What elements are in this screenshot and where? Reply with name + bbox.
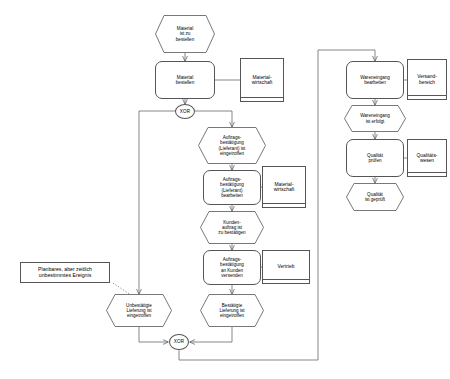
org-unit-label: Vertrieb — [278, 264, 295, 269]
edge-xor-right-branch — [195, 111, 232, 127]
event-auftragsbestaetigung-eingetroffen[interactable]: Auftrags- bestätigung (Lieferant) ist ei… — [198, 127, 266, 164]
event-label: Qualität ist geprüft — [358, 192, 392, 202]
event-label: Auftrags- bestätigung (Lieferant) ist ei… — [212, 135, 253, 156]
connector-label: XOR — [180, 109, 190, 114]
function-label: Wareneingang bearbeiten — [356, 75, 394, 85]
event-label: Material ist zu bestellen — [169, 26, 201, 41]
connector-xor-top[interactable]: XOR — [175, 104, 195, 119]
connector-xor-bottom[interactable]: XOR — [169, 334, 189, 350]
edge-ul-to-xor-bottom — [139, 327, 168, 342]
event-label: Wareneingang ist erfolgt — [353, 113, 397, 123]
event-label: Unbestätigte Lieferung ist eingetroffen — [119, 303, 159, 318]
event-label: Bestätigte Lieferung ist eingetroffen — [212, 303, 251, 318]
epc-diagram-canvas: Material ist zu bestellen Material beste… — [0, 0, 450, 379]
function-auftragsbestaetigung-bearbeiten[interactable]: Auftrags- bestätigung (Lieferant) bearbe… — [203, 170, 261, 205]
function-auftragsbestaetigung-versenden[interactable]: Auftrags- bestätigung an Kunden versende… — [203, 250, 261, 285]
org-unit-label: Qualitäts- wesen — [417, 153, 438, 164]
event-label: Kunden- auftrag ist zu bestätigen — [211, 220, 252, 235]
function-label: Auftrags- bestätigung an Kunden versende… — [216, 257, 248, 278]
function-label: Auftrags- bestätigung (Lieferant) bearbe… — [216, 177, 248, 198]
event-unbestaetigte-lieferung[interactable]: Unbestätigte Lieferung ist eingetroffen — [106, 294, 172, 327]
connector-label: XOR — [174, 339, 184, 344]
event-wareneingang-erfolgt[interactable]: Wareneingang ist erfolgt — [344, 105, 406, 132]
function-wareneingang-bearbeiten[interactable]: Wareneingang bearbeiten — [346, 61, 404, 99]
org-unit-materialwirtschaft-mid[interactable]: Material- wirtschaft — [262, 166, 306, 208]
org-unit-materialwirtschaft-top[interactable]: Material- wirtschaft — [240, 58, 284, 102]
edge-xor-left-branch — [139, 111, 175, 294]
function-label: Material bestellen — [172, 75, 198, 85]
event-kundenauftrag-zu-bestaetigen[interactable]: Kunden- auftrag ist zu bestätigen — [200, 211, 264, 244]
event-material-zu-bestellen[interactable]: Material ist zu bestellen — [155, 15, 215, 53]
org-unit-qualitaetswesen[interactable]: Qualitäts- wesen — [407, 139, 447, 177]
note-label: Planbares, aber zeitlich unbestimmtes Er… — [35, 267, 95, 279]
note-planbares-ereignis: Planbares, aber zeitlich unbestimmtes Er… — [20, 262, 110, 283]
org-unit-label: Material- wirtschaft — [252, 75, 273, 86]
edge-bl-to-xor-bottom — [190, 327, 232, 342]
function-material-bestellen[interactable]: Material bestellen — [155, 61, 215, 99]
org-unit-vertrieb[interactable]: Vertrieb — [262, 250, 310, 284]
org-unit-label: Material- wirtschaft — [274, 182, 295, 193]
function-label: Qualität prüfen — [363, 153, 387, 163]
org-unit-versandbereich[interactable]: Versand- bereich — [407, 59, 447, 100]
event-qualitaet-geprueft[interactable]: Qualität ist geprüft — [346, 183, 404, 211]
event-bestaetigte-lieferung[interactable]: Bestätigte Lieferung ist eingetroffen — [200, 294, 264, 327]
org-unit-label: Versand- bereich — [417, 74, 437, 85]
function-qualitaet-pruefen[interactable]: Qualität prüfen — [346, 139, 404, 177]
